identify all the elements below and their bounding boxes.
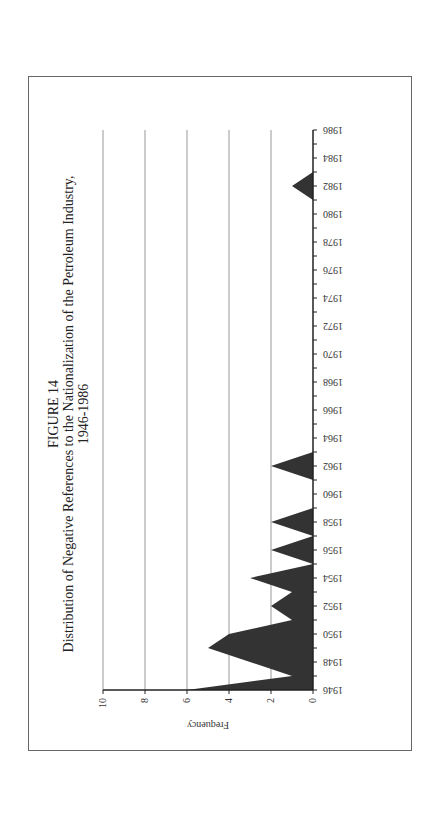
y-tick-label: 10	[97, 698, 108, 708]
x-tick-label: 1964	[323, 433, 343, 444]
x-tick-label: 1946	[323, 685, 343, 696]
area-chart: 0246810Frequency194619481950195219541956…	[28, 76, 413, 752]
x-tick-label: 1958	[323, 517, 343, 528]
x-tick-label: 1984	[323, 153, 343, 164]
rotated-figure: FIGURE 14 Distribution of Negative Refer…	[28, 76, 413, 752]
x-tick-label: 1960	[323, 489, 343, 500]
area-series	[187, 130, 313, 690]
x-tick-label: 1950	[323, 629, 343, 640]
x-tick-label: 1962	[323, 461, 343, 472]
x-tick-label: 1976	[323, 265, 343, 276]
y-axis-label: Frequency	[187, 720, 229, 731]
x-tick-label: 1978	[323, 237, 343, 248]
x-tick-label: 1956	[323, 545, 343, 556]
x-tick-label: 1966	[323, 405, 343, 416]
x-tick-label: 1970	[323, 349, 343, 360]
x-tick-label: 1974	[323, 293, 343, 304]
x-tick-label: 1980	[323, 209, 343, 220]
y-tick-label: 0	[307, 698, 318, 703]
y-tick-label: 4	[223, 698, 234, 703]
x-tick-label: 1948	[323, 657, 343, 668]
x-tick-label: 1972	[323, 321, 343, 332]
x-tick-label: 1982	[323, 181, 343, 192]
x-tick-label: 1954	[323, 573, 343, 584]
x-tick-label: 1968	[323, 377, 343, 388]
y-tick-label: 2	[265, 698, 276, 703]
y-tick-label: 8	[139, 698, 150, 703]
y-tick-label: 6	[181, 698, 192, 703]
x-tick-label: 1986	[323, 125, 343, 136]
x-tick-label: 1952	[323, 601, 343, 612]
